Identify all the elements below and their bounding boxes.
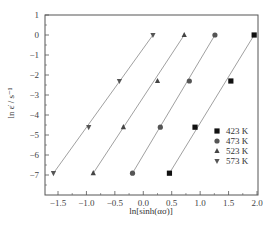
chart: −1.5−1.0−0.50.00.51.01.52.010−1−2−3−4−5−… <box>0 0 277 228</box>
figure-caption-clipped <box>60 221 250 228</box>
square-marker <box>167 171 172 176</box>
legend-square-icon <box>214 128 219 133</box>
legend-circle-icon <box>214 138 219 143</box>
circle-marker <box>130 171 135 176</box>
circle-marker <box>187 78 192 83</box>
y-tick-label: −2 <box>29 70 39 80</box>
plot-border <box>45 15 258 195</box>
fit-lines <box>53 35 254 173</box>
fit-line <box>93 35 184 173</box>
y-tick-label: −6 <box>29 150 39 160</box>
circle-marker <box>212 32 217 37</box>
y-axis-title: ln ε̇ / s⁻¹ <box>6 87 16 118</box>
triangle-down-marker <box>51 171 56 176</box>
x-tick-label: 1.5 <box>223 198 235 208</box>
circle-marker <box>158 125 163 130</box>
triangle-down-marker <box>117 79 122 84</box>
x-tick-label: −1.5 <box>50 198 67 208</box>
legend: 423 K473 K523 K573 K <box>214 126 248 166</box>
y-tick-label: −4 <box>29 110 39 120</box>
square-marker <box>192 125 197 130</box>
square-marker <box>252 32 257 37</box>
legend-label: 473 K <box>226 136 249 146</box>
y-tick-label: −5 <box>29 130 39 140</box>
x-tick-label: −0.5 <box>107 198 124 208</box>
y-tick-label: −1 <box>29 50 39 60</box>
legend-triangle-up-icon <box>214 148 219 153</box>
axis-ticks: −1.5−1.0−0.50.00.51.01.52.010−1−2−3−4−5−… <box>29 10 263 208</box>
legend-label: 523 K <box>226 146 249 156</box>
y-tick-label: 1 <box>35 10 40 20</box>
fit-line <box>132 35 214 173</box>
plot-frame <box>45 15 258 195</box>
y-tick-label: −3 <box>29 90 39 100</box>
x-axis-title: ln[sinh(ασ)] <box>129 206 173 216</box>
y-tick-label: 0 <box>35 30 40 40</box>
x-tick-label: 2.0 <box>251 198 263 208</box>
triangle-up-marker <box>182 32 187 37</box>
triangle-down-marker <box>86 125 91 130</box>
square-marker <box>228 78 233 83</box>
y-tick-label: −7 <box>29 170 39 180</box>
legend-triangle-down-icon <box>214 159 219 164</box>
fit-line <box>53 35 153 173</box>
x-tick-label: −1.0 <box>78 198 95 208</box>
legend-label: 573 K <box>226 156 249 166</box>
legend-label: 423 K <box>226 126 249 136</box>
x-tick-label: 1.0 <box>195 198 207 208</box>
